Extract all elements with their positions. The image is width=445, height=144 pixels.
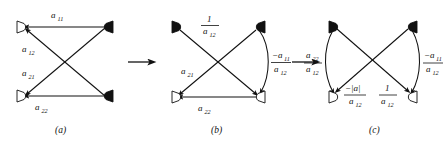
panel-b-label-a21: a 21 [181, 66, 194, 78]
svg-text:22: 22 [313, 55, 319, 62]
panel-a-label-a22: a 22 [35, 102, 48, 114]
signal-flow-graph-figure: a 11 a 12 a 21 a 22 (a) [0, 0, 445, 144]
svg-text:12: 12 [433, 69, 439, 76]
panel-b-node-top-right [256, 21, 265, 33]
svg-text:a: a [22, 44, 27, 54]
panel-a-node-top-right [104, 21, 113, 33]
svg-text:1: 1 [207, 14, 212, 24]
panel-c-node-bottom-left [329, 91, 338, 103]
panel-a-node-bottom-left [17, 90, 26, 102]
svg-text:12: 12 [210, 31, 216, 38]
svg-text:22: 22 [42, 107, 48, 114]
panel-c-node-top-left [329, 21, 338, 33]
panel-a-node-bottom-right [104, 90, 113, 102]
panel-b-edge-right-curve [259, 30, 268, 92]
panel-a-label-a11: a 11 [51, 10, 63, 22]
panel-a-label-a12: a 12 [22, 44, 35, 56]
panel-b-node-top-left [172, 21, 181, 33]
svg-text:12: 12 [313, 69, 319, 76]
panel-c-label-one-over-a12: 1 a 12 [379, 83, 397, 108]
svg-text:11: 11 [436, 55, 442, 62]
svg-text:11: 11 [284, 55, 290, 62]
panel-b-node-bottom-left [172, 91, 181, 103]
panel-c-node-bottom-right [408, 91, 417, 103]
svg-text:a: a [426, 64, 431, 74]
panel-a-edge-lower-diagonal [27, 28, 105, 94]
panel-b-label-a22: a 22 [198, 103, 211, 115]
panel-a-edge-upper-diagonal [27, 30, 105, 96]
svg-text:21: 21 [188, 71, 194, 78]
svg-text:11: 11 [58, 15, 64, 22]
panel-c-edge-right-curve [412, 30, 420, 92]
panel-b-label-neg-a11-over-a12: −a 11 a 12 [271, 50, 291, 76]
svg-text:a: a [198, 103, 203, 113]
panel-b: 1 a 12 a 21 −a 11 a 12 a 22 [172, 14, 291, 136]
panel-a-node-top-left [17, 21, 26, 33]
svg-text:a: a [349, 96, 354, 106]
svg-text:22: 22 [205, 108, 211, 115]
svg-text:−|a|: −|a| [345, 83, 361, 93]
panel-c: a 22 a 12 −a 11 a 12 −|a| a 12 [304, 21, 443, 136]
panel-c-label-a22-over-a12: a 22 a 12 [304, 50, 322, 76]
svg-text:12: 12 [388, 101, 394, 108]
svg-text:1: 1 [385, 83, 390, 93]
panel-b-node-bottom-right [256, 91, 265, 103]
svg-text:a: a [51, 10, 56, 20]
svg-text:a: a [203, 26, 208, 36]
panel-c-label-neg-a11-over-a12: −a 11 a 12 [423, 50, 443, 76]
svg-text:a: a [35, 102, 40, 112]
panel-a: a 11 a 12 a 21 a 22 (a) [17, 10, 113, 136]
svg-text:a: a [181, 66, 186, 76]
svg-text:12: 12 [29, 49, 35, 56]
svg-text:a: a [22, 68, 27, 78]
panel-c-label-neg-det-over-a12: −|a| a 12 [344, 83, 366, 108]
panel-a-label-a21: a 21 [22, 68, 35, 80]
svg-text:21: 21 [29, 73, 35, 80]
svg-text:a: a [306, 50, 311, 60]
panel-a-caption: (a) [55, 125, 66, 136]
svg-text:12: 12 [281, 69, 287, 76]
svg-text:a: a [274, 64, 279, 74]
svg-text:a: a [381, 96, 386, 106]
svg-text:a: a [306, 64, 311, 74]
panel-c-edge-left-curve [325, 30, 333, 92]
figure-root: a 11 a 12 a 21 a 22 (a) [0, 0, 445, 144]
panel-b-label-one-over-a12: 1 a 12 [201, 14, 219, 38]
panel-c-node-top-right [408, 21, 417, 33]
svg-text:−a: −a [424, 50, 435, 60]
panel-b-caption: (b) [211, 125, 222, 136]
svg-text:−a: −a [272, 50, 283, 60]
svg-text:12: 12 [356, 101, 362, 108]
panel-c-caption: (c) [369, 125, 380, 136]
